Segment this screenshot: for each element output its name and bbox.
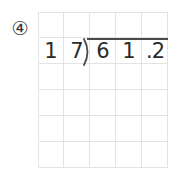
grid-cell-r1-c1[interactable]: [64, 38, 90, 64]
grid-cell-r3-c4[interactable]: [142, 90, 168, 116]
grid-cell-r5-c4[interactable]: [142, 142, 168, 168]
worksheet-canvas: ④ 1761.2: [0, 0, 178, 178]
grid-cell-r3-c0[interactable]: [38, 90, 64, 116]
grid-cell-r5-c1[interactable]: [64, 142, 90, 168]
grid-cell-r4-c0[interactable]: [38, 116, 64, 142]
grid-cell-r2-c1[interactable]: [64, 64, 90, 90]
grid-cell-r1-c3[interactable]: [116, 38, 142, 64]
grid-cell-r3-c1[interactable]: [64, 90, 90, 116]
grid-cell-r2-c3[interactable]: [116, 64, 142, 90]
grid-cell-r0-c4[interactable]: [142, 12, 168, 38]
grid-cell-r4-c1[interactable]: [64, 116, 90, 142]
math-grid[interactable]: [38, 12, 168, 168]
grid-cell-r5-c2[interactable]: [90, 142, 116, 168]
grid-cell-r0-c0[interactable]: [38, 12, 64, 38]
grid-cell-r5-c0[interactable]: [38, 142, 64, 168]
grid-cell-r2-c4[interactable]: [142, 64, 168, 90]
grid-cell-r5-c3[interactable]: [116, 142, 142, 168]
grid-cell-r2-c2[interactable]: [90, 64, 116, 90]
grid-cell-r2-c0[interactable]: [38, 64, 64, 90]
grid-cell-r0-c2[interactable]: [90, 12, 116, 38]
grid-cell-r1-c2[interactable]: [90, 38, 116, 64]
grid-cell-r4-c4[interactable]: [142, 116, 168, 142]
grid-cell-r1-c0[interactable]: [38, 38, 64, 64]
grid-cell-r4-c3[interactable]: [116, 116, 142, 142]
grid-cell-r0-c3[interactable]: [116, 12, 142, 38]
grid-cell-r3-c2[interactable]: [90, 90, 116, 116]
grid-cell-r3-c3[interactable]: [116, 90, 142, 116]
problem-number-label: ④: [8, 16, 32, 40]
grid-cell-r1-c4[interactable]: [142, 38, 168, 64]
grid-cell-r4-c2[interactable]: [90, 116, 116, 142]
grid-cell-r0-c1[interactable]: [64, 12, 90, 38]
